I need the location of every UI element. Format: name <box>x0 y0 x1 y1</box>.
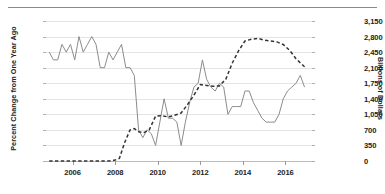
right-tick-label: 2,100 <box>364 63 385 72</box>
right-tick-mark <box>312 37 315 38</box>
x-tick-label: 2012 <box>180 168 220 177</box>
right-tick-mark <box>312 161 315 162</box>
right-tick-mark <box>312 52 315 53</box>
x-tick-mark <box>115 161 116 165</box>
x-tick-label: 2010 <box>138 168 178 177</box>
right-tick-label: 1,400 <box>364 94 385 103</box>
right-tick-label: 1,050 <box>364 110 385 119</box>
right-tick-mark <box>312 130 315 131</box>
x-tick-mark <box>243 161 244 165</box>
right-tick-mark <box>312 83 315 84</box>
x-tick-label: 2014 <box>223 168 263 177</box>
left-tick-mark <box>43 161 46 162</box>
series-lines-group <box>46 21 312 161</box>
x-tick-label: 2006 <box>53 168 93 177</box>
right-tick-mark <box>312 68 315 69</box>
series-line-percent-change <box>49 37 304 146</box>
x-tick-mark <box>158 161 159 165</box>
right-tick-mark <box>312 21 315 22</box>
right-tick-mark <box>312 114 315 115</box>
left-axis-title: Percent Change from One Year Ago <box>9 14 18 164</box>
plot-area: 0.81.01.21.41.61.82.02.22.42.6 03507001,… <box>46 21 312 161</box>
right-tick-mark <box>312 145 315 146</box>
right-tick-label: 1,750 <box>364 79 385 88</box>
x-tick-mark <box>200 161 201 165</box>
right-tick-label: 3,150 <box>364 17 385 26</box>
x-tick-label: 2008 <box>95 168 135 177</box>
chart-figure: Percent Change from One Year Ago Billion… <box>0 0 385 194</box>
top-divider-rule <box>8 7 377 8</box>
right-tick-label: 0 <box>364 157 385 166</box>
right-tick-label: 2,800 <box>364 32 385 41</box>
right-tick-mark <box>312 99 315 100</box>
right-tick-label: 700 <box>364 125 385 134</box>
x-tick-label: 2016 <box>265 168 305 177</box>
x-tick-mark <box>285 161 286 165</box>
series-line-billions-of-dollars <box>49 38 304 161</box>
right-tick-label: 2,450 <box>364 48 385 57</box>
right-tick-label: 350 <box>364 141 385 150</box>
